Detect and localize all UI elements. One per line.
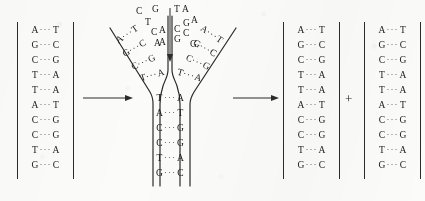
base-right: G: [177, 123, 185, 133]
hydrogen-bond: ···: [305, 84, 318, 94]
base-right: C: [52, 40, 60, 50]
hydrogen-bond: ···: [164, 152, 177, 162]
hydrogen-bond: ···: [164, 92, 177, 102]
base-left: G: [31, 160, 39, 170]
base-left: A: [31, 100, 39, 110]
unwound-base-right: G: [174, 35, 181, 45]
hydrogen-bond: ···: [386, 129, 399, 139]
base-pair: A···T: [154, 105, 186, 120]
base-pair: G···C: [364, 37, 421, 52]
base-right: A: [52, 70, 60, 80]
base-pair: T···A: [154, 90, 186, 105]
arrow-right-icon: [233, 92, 279, 104]
base-pair: C···G: [17, 52, 74, 67]
base-pair: T···A: [283, 142, 340, 157]
base-left: G: [378, 160, 386, 170]
base-right: G: [399, 115, 407, 125]
base-right: G: [318, 115, 326, 125]
base-pair: T···A: [283, 82, 340, 97]
hydrogen-bond: ···: [39, 54, 52, 64]
base-left: C: [378, 55, 386, 65]
base-pair: T···A: [364, 82, 421, 97]
base-left: T: [297, 70, 305, 80]
hydrogen-bond: ···: [305, 69, 318, 79]
hydrogen-bond: ···: [305, 39, 318, 49]
base-pair: C···G: [17, 127, 74, 142]
unwound-base-left: C: [136, 7, 142, 17]
base-left: C: [31, 115, 39, 125]
hydrogen-bond: ···: [164, 167, 177, 177]
incoming-base-left: A: [159, 38, 166, 48]
base-pair: C···G: [154, 120, 186, 135]
base-left: C: [31, 130, 39, 140]
base-right: A: [52, 145, 60, 155]
base-left: C: [297, 130, 305, 140]
base-left: T: [297, 85, 305, 95]
base-pair: A···T: [364, 97, 421, 112]
base-pair: C···G: [283, 52, 340, 67]
incoming-base-right: A: [191, 16, 198, 26]
base-left: G: [378, 40, 386, 50]
base-left: G: [156, 168, 164, 178]
base-pair: G···C: [364, 157, 421, 172]
base-pair: T···A: [17, 82, 74, 97]
base-left: C: [378, 115, 386, 125]
hydrogen-bond: ···: [39, 84, 52, 94]
base-right: C: [52, 160, 60, 170]
base-right: A: [177, 153, 185, 163]
unwound-base-left: T: [145, 18, 151, 28]
base-left: T: [31, 70, 39, 80]
base-right: C: [318, 40, 326, 50]
base-pair: T···A: [364, 67, 421, 82]
base-pair: A···T: [17, 22, 74, 37]
base-right: T: [399, 100, 407, 110]
hydrogen-bond: ···: [386, 69, 399, 79]
base-pair: C···G: [17, 112, 74, 127]
base-left: T: [378, 145, 386, 155]
base-right: A: [399, 145, 407, 155]
unwound-base-right: T: [174, 5, 180, 15]
base-pair: A···T: [17, 97, 74, 112]
base-left: C: [156, 123, 164, 133]
base-pair: A···T: [283, 22, 340, 37]
base-left: G: [31, 40, 39, 50]
plus-sign: +: [345, 92, 352, 105]
base-left: G: [297, 40, 305, 50]
hydrogen-bond: ···: [386, 54, 399, 64]
base-left: T: [378, 70, 386, 80]
hydrogen-bond: ···: [164, 107, 177, 117]
base-pair: G···C: [17, 157, 74, 172]
hydrogen-bond: ···: [305, 144, 318, 154]
hydrogen-bond: ···: [305, 99, 318, 109]
hydrogen-bond: ···: [386, 114, 399, 124]
hydrogen-bond: ···: [39, 114, 52, 124]
base-pair: A···T: [364, 22, 421, 37]
daughter-dna-duplex-1: A···T G···C C···G T···A T···A A···T C···…: [283, 22, 340, 179]
base-left: A: [297, 25, 305, 35]
base-pair: T···A: [154, 150, 186, 165]
parent-dna-duplex: A···T G···C C···G T···A T···A A···T C···…: [17, 22, 74, 179]
hydrogen-bond: ···: [386, 24, 399, 34]
base-left: C: [297, 55, 305, 65]
base-left: A: [378, 100, 386, 110]
base-left: T: [156, 93, 164, 103]
base-right: C: [399, 160, 407, 170]
base-left: A: [31, 25, 39, 35]
base-right: T: [399, 25, 407, 35]
hydrogen-bond: ···: [386, 99, 399, 109]
base-pair: G···C: [283, 37, 340, 52]
base-pair: G···C: [17, 37, 74, 52]
hydrogen-bond: ···: [39, 99, 52, 109]
base-pair: C···G: [364, 127, 421, 142]
base-right: G: [52, 55, 60, 65]
hydrogen-bond: ···: [39, 39, 52, 49]
hydrogen-bond: ···: [164, 137, 177, 147]
base-pair: T···A: [283, 67, 340, 82]
base-right: T: [318, 100, 326, 110]
base-pair: C···G: [364, 52, 421, 67]
hydrogen-bond: ···: [39, 159, 52, 169]
hydrogen-bond: ···: [386, 144, 399, 154]
hydrogen-bond: ···: [305, 54, 318, 64]
base-pair: G···C: [154, 165, 186, 180]
hydrogen-bond: ···: [39, 129, 52, 139]
